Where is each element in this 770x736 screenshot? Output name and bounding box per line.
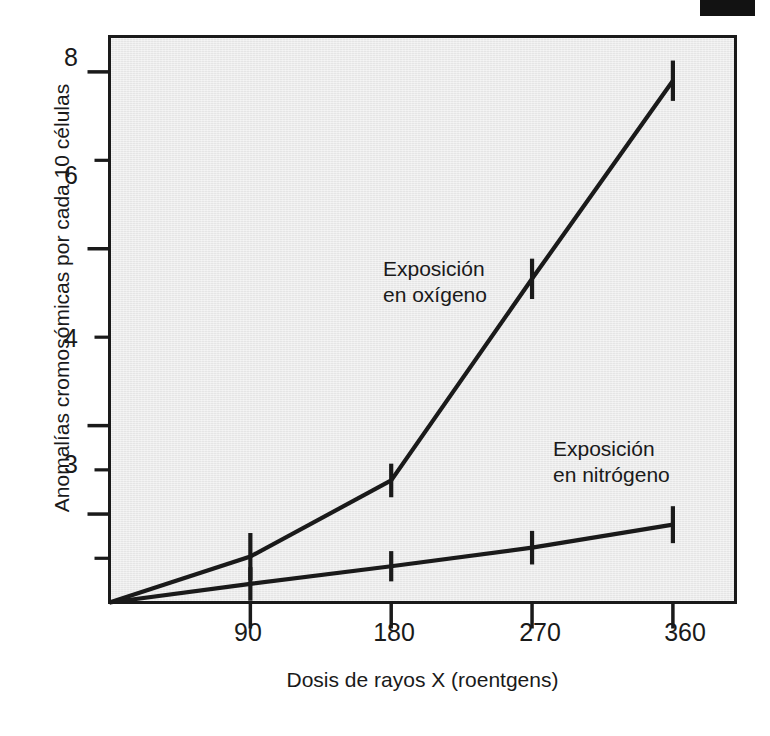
chart-vector-overlay xyxy=(0,0,770,736)
figure-canvas: 8 6 4 3 90 180 270 360 Dosis de rayos X … xyxy=(0,0,770,736)
series-lines-group xyxy=(110,81,673,603)
x-axis-tick-marks xyxy=(250,603,673,629)
error-bars-group xyxy=(250,61,673,601)
series-line-oxygen xyxy=(110,81,673,603)
y-axis-tick-marks xyxy=(88,72,110,558)
